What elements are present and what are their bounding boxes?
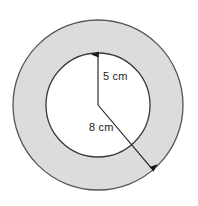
inner-radius-label: 5 cm <box>103 70 128 83</box>
annulus-diagram-svg <box>0 0 198 206</box>
annulus-figure: 5 cm 8 cm <box>0 0 198 206</box>
outer-radius-label: 8 cm <box>89 121 114 134</box>
